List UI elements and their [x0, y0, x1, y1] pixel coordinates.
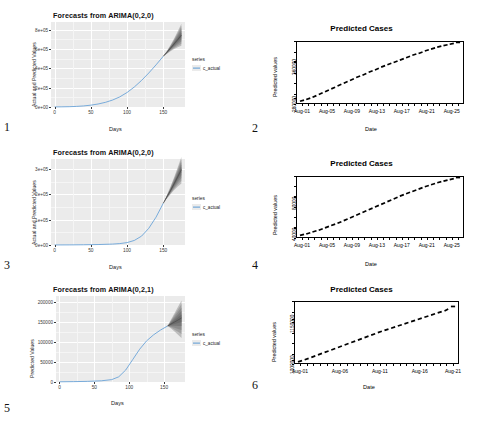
panel-5: Forecasts from ARIMA(0,2,1) Predicted Va…: [0, 280, 241, 421]
x-tick-label: 0: [58, 385, 61, 390]
y-tick-mark-minor: [294, 94, 296, 95]
x-tick-mark: [302, 104, 303, 106]
y-tick-mark: [49, 194, 51, 195]
data-point-dash: [319, 229, 323, 230]
ggplot-chart-3: Forecasts from ARIMA(0,2,0) Actual and P…: [0, 140, 241, 280]
panel-number: 3: [4, 259, 10, 271]
data-point-dash: [412, 190, 416, 191]
data-point-dash: [394, 197, 398, 199]
data-point-dash: [311, 356, 315, 357]
y-tick-mark: [49, 245, 51, 246]
x-tick-mark: [367, 364, 368, 366]
panel-3: Forecasts from ARIMA(0,2,0) Actual and P…: [0, 140, 241, 280]
y-tick-mark: [49, 49, 51, 50]
x-tick-mark: [358, 238, 359, 240]
y-tick-label: 1150000: [290, 314, 295, 332]
y-tick-mark-minor: [294, 207, 296, 208]
y-tick-label: 40000: [292, 228, 297, 241]
x-tick-mark: [433, 238, 434, 240]
data-point-dash: [338, 346, 342, 347]
x-tick-label: Aug-09: [344, 108, 360, 114]
y-tick-label: 0: [36, 380, 53, 385]
y-tick-mark-minor: [294, 176, 296, 177]
x-axis-label: Days: [111, 400, 124, 406]
data-point-dash: [371, 334, 375, 335]
data-point-dash: [443, 180, 447, 181]
data-point-dash: [431, 48, 435, 49]
series-overlay: [241, 0, 482, 140]
panel-number: 2: [252, 122, 258, 134]
y-tick-mark-minor: [294, 73, 296, 74]
data-point-dash: [400, 195, 404, 196]
panel-1: Forecasts from ARIMA(0,2,0) Actual and P…: [0, 0, 241, 140]
data-point-dash: [404, 323, 408, 324]
y-tick-mark: [49, 68, 51, 69]
x-tick-label: 50: [88, 248, 93, 253]
x-tick-label: 150: [159, 110, 167, 115]
y-tick-mark-minor: [294, 186, 296, 187]
x-axis-label: Date: [363, 384, 375, 390]
y-tick-mark: [292, 319, 294, 320]
y-tick-mark-minor: [292, 312, 294, 313]
legend-line-swatch-icon: [192, 204, 201, 210]
panel-number: 4: [252, 259, 258, 271]
data-point-dash: [331, 224, 335, 225]
x-tick-mark: [307, 364, 308, 366]
x-tick-mark: [308, 238, 309, 240]
x-axis-label: Date: [365, 126, 377, 132]
x-tick-label: Aug-21: [419, 242, 435, 248]
legend-line-swatch-icon: [192, 340, 201, 346]
legend: series c_actual: [192, 332, 220, 346]
y-tick-mark-minor: [294, 228, 296, 229]
data-point-dash: [445, 309, 449, 311]
data-point-dash: [319, 93, 323, 95]
x-tick-mark: [321, 104, 322, 106]
x-tick-mark: [421, 104, 422, 106]
x-tick-label: 150: [159, 248, 167, 253]
x-tick-mark: [127, 107, 128, 109]
x-tick-label: Aug-25: [444, 108, 460, 114]
x-tick-mark: [94, 382, 95, 384]
series-overlay: [241, 280, 482, 421]
x-tick-mark: [352, 238, 353, 240]
y-tick-mark-minor: [294, 62, 296, 63]
x-tick-mark: [91, 245, 92, 247]
data-point-dash: [387, 63, 391, 64]
x-tick-mark: [402, 238, 403, 240]
data-point-dash: [356, 214, 360, 216]
x-tick-mark: [377, 104, 378, 106]
data-point-dash: [438, 312, 442, 313]
data-point-dash: [305, 358, 309, 359]
x-tick-mark: [346, 104, 347, 106]
x-tick-mark: [396, 104, 397, 106]
data-point-dash: [369, 71, 373, 72]
x-tick-label: 100: [125, 385, 133, 390]
x-tick-mark: [389, 104, 390, 106]
x-tick-mark: [313, 364, 314, 366]
x-tick-label: Aug-05: [319, 108, 335, 114]
data-point-dash: [300, 234, 304, 235]
data-point-dash: [312, 231, 316, 232]
y-tick-label: 3e+05: [31, 167, 48, 172]
x-tick-mark: [396, 238, 397, 240]
x-tick-mark: [406, 364, 407, 366]
x-tick-label: 0: [53, 110, 56, 115]
x-tick-mark: [164, 382, 165, 384]
x-tick-mark: [55, 107, 56, 109]
figure-panel-grid: Forecasts from ARIMA(0,2,0) Actual and P…: [0, 0, 482, 421]
data-point-dash: [431, 314, 435, 315]
data-point-dash: [306, 233, 310, 234]
data-point-dash: [362, 74, 366, 76]
x-tick-mark: [383, 238, 384, 240]
ggplot-chart-1: Forecasts from ARIMA(0,2,0) Actual and P…: [0, 0, 241, 140]
data-point-dash: [384, 329, 388, 330]
data-point-dash: [387, 200, 391, 202]
x-tick-mark: [314, 104, 315, 106]
data-point-dash: [331, 87, 335, 89]
data-point-dash: [412, 54, 416, 55]
panel-6: Predicted Cases Predicted values Date 10…: [241, 280, 482, 421]
x-tick-label: 0: [53, 248, 56, 253]
legend-item-label: c_actual: [203, 341, 220, 346]
x-tick-label: Aug-01: [292, 368, 308, 374]
x-tick-label: Aug-09: [344, 242, 360, 248]
